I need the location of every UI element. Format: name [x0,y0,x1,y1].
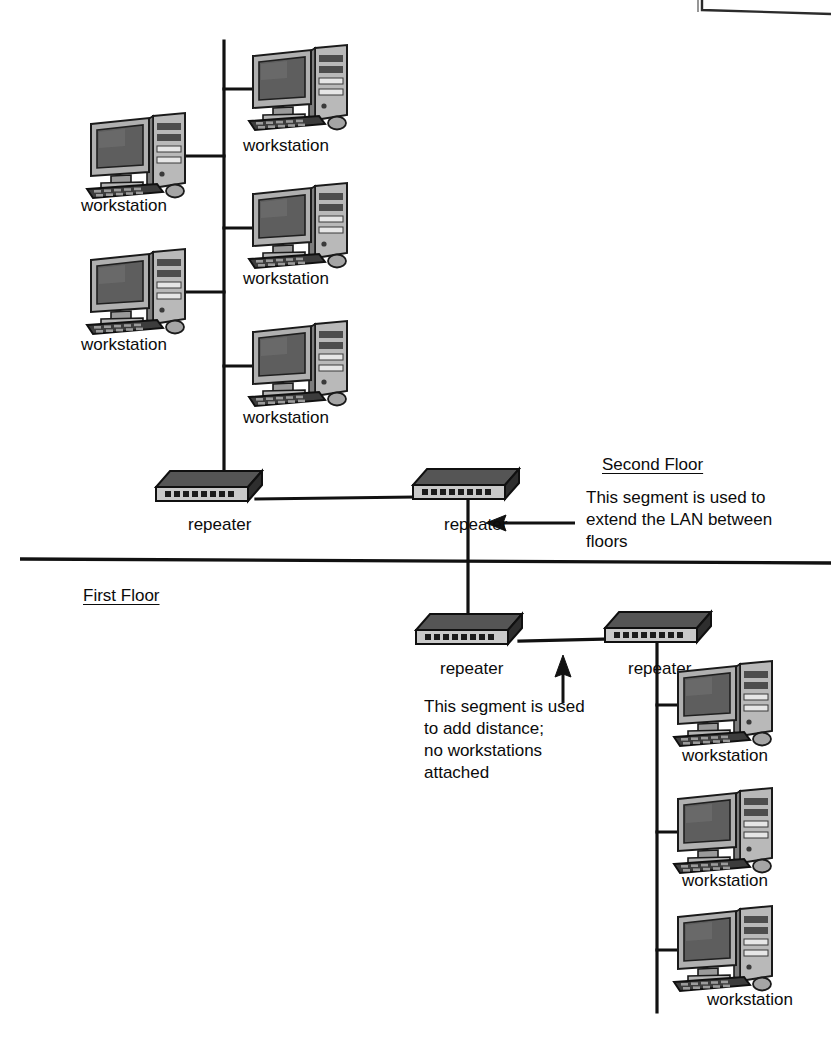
pc-mouse [328,117,346,130]
pc-mouse [753,733,771,746]
pc-monitor [253,188,311,258]
annotation-line: This segment is used [424,696,585,718]
pc-tower [309,45,347,120]
pc-tower [309,183,347,258]
pc-mouse [328,255,346,268]
pc-tower [734,906,772,981]
repeater-rep-first-right[interactable] [601,609,715,651]
repeater-label: repeater [440,659,503,679]
network-diagram-canvas: workstation [0,0,831,1037]
workstation-ws-mid-right[interactable] [247,180,355,275]
repeater-rep-second-right[interactable] [409,466,523,508]
repeater-rep-second-left[interactable] [152,468,266,510]
annotation-line: attached [424,762,585,784]
workstation-ws-bottom-right[interactable] [247,318,355,413]
floor-label-second-floor: Second Floor [602,455,703,475]
repeater-label: repeater [444,515,507,535]
workstation-ws-lower-left[interactable] [85,246,193,341]
pc-monitor [678,793,736,863]
workstation-label: workstation [243,269,329,289]
pc-monitor [678,666,736,736]
floor-divider-line [20,559,831,563]
pc-monitor [253,50,311,120]
workstation-label: workstation [243,408,329,428]
pc-tower [309,321,347,396]
annotation-line: extend the LAN between [586,509,772,531]
link-first-floor-repeaters [519,639,612,641]
pc-monitor [253,326,311,396]
pc-monitor [91,254,149,324]
repeater-top-face [413,469,519,485]
pc-tower [734,661,772,736]
pc-keyboard [249,392,325,406]
annotation-line: This segment is used to [586,487,772,509]
link-second-floor-repeaters [256,497,414,499]
workstation-label: workstation [682,746,768,766]
workstation-label: workstation [81,196,167,216]
repeater-top-face [156,471,262,487]
workstation-ws-top-right[interactable] [247,42,355,137]
floor-label-first-floor: First Floor [83,586,160,606]
annotation-line: to add distance; [424,718,585,740]
repeater-label: repeater [188,515,251,535]
annotation-note-extend-lan: This segment is used to extend the LAN b… [586,487,772,553]
workstation-ws-fl-3[interactable] [672,903,780,998]
workstation-ws-fl-2[interactable] [672,785,780,880]
pc-keyboard [674,977,750,991]
pc-mouse [753,978,771,991]
pc-tower [147,249,185,324]
workstation-ws-upper-left[interactable] [85,110,193,205]
repeater-top-face [416,614,522,630]
workstation-ws-fl-1[interactable] [672,658,780,753]
workstation-label: workstation [81,335,167,355]
workstation-label: workstation [707,990,793,1010]
pc-keyboard [249,116,325,130]
pc-keyboard [249,254,325,268]
annotation-note-add-distance: This segment is used to add distance; no… [424,696,585,784]
pc-tower [147,113,185,188]
workstation-label: workstation [243,136,329,156]
annotation-line: no workstations [424,740,585,762]
repeater-top-face [605,612,711,628]
page-corner-frame [697,0,831,22]
pc-mouse [166,321,184,334]
repeater-rep-first-left[interactable] [412,611,526,653]
pc-mouse [166,185,184,198]
annotation-line: floors [586,531,772,553]
pc-mouse [328,393,346,406]
pc-tower [734,788,772,863]
workstation-label: workstation [682,871,768,891]
pc-monitor [678,911,736,981]
pc-keyboard [674,732,750,746]
pc-monitor [91,118,149,188]
pc-keyboard [87,320,163,334]
